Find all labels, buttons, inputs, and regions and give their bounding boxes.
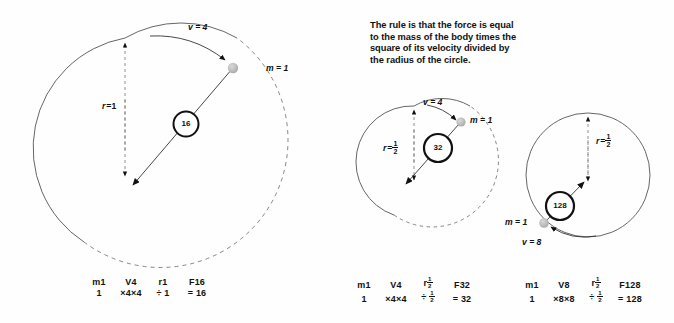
mass-dot-3: [539, 218, 549, 228]
rule-text-line-4: the radius of the circle.: [370, 55, 570, 67]
orbit-circle-solid-2: [356, 106, 414, 215]
mass-dot-2: [456, 117, 465, 126]
formula-1-calculation: 1 ×4×4 ÷ 1 = 16: [84, 288, 216, 298]
diagram-3-group: [526, 113, 650, 237]
mass-label-3: m = 1: [505, 217, 527, 227]
rule-text-line-3: square of its velocity divided by: [370, 43, 570, 55]
rule-text-line-2: to the mass of the body times the: [370, 32, 570, 44]
radius-value-1: 1: [111, 101, 116, 111]
formula-3-radius-header: r12: [581, 277, 611, 290]
formula-2: m1 V4 r12 F32 1 ×4×4 ÷ 12 = 32: [349, 277, 481, 304]
formula-2-result: = 32: [443, 294, 481, 304]
formula-3-velocity-header: V8: [547, 280, 581, 290]
formula-1: m1 V4 r1 F16 1 ×4×4 ÷ 1 = 16: [84, 277, 216, 298]
rule-text-block: The rule is that the force is equal to t…: [370, 20, 570, 66]
formula-3-force-header: F128: [611, 280, 649, 290]
mass-dot-1: [228, 63, 238, 73]
mass-label-2: m = 1: [470, 115, 492, 125]
velocity-label-1: v = 4: [188, 22, 207, 32]
formula-3-velocity-product: ×8×8: [547, 294, 581, 304]
force-value-3: 128: [548, 201, 572, 210]
formula-2-velocity-product: ×4×4: [379, 294, 413, 304]
formula-3-result: = 128: [611, 294, 649, 304]
velocity-arrow-2: [427, 105, 456, 120]
formula-1-mass-header: m1: [84, 277, 114, 287]
formula-1-velocity-header: V4: [114, 277, 148, 287]
mass-label-1: m = 1: [266, 63, 288, 73]
diagram-1-group: [33, 23, 288, 268]
formula-2-mass-value: 1: [349, 294, 379, 304]
radius-label-3: r = 1 2: [596, 133, 611, 148]
radius-symbol-1: r: [102, 101, 105, 111]
formula-1-result: = 16: [178, 288, 216, 298]
formula-2-radius-header: r12: [413, 277, 443, 290]
orbit-circle-solid-1b: [125, 23, 237, 38]
radius-symbol-2: r: [383, 143, 386, 153]
radius-denominator-3: 2: [605, 140, 611, 148]
formula-1-velocity-product: ×4×4: [114, 288, 148, 298]
formula-2-headers: m1 V4 r12 F32: [349, 277, 481, 290]
rule-text-line-1: The rule is that the force is equal: [370, 20, 570, 32]
velocity-label-2: v = 4: [423, 97, 442, 107]
formula-2-mass-header: m1: [349, 280, 379, 290]
formula-2-divide-radius: ÷ 12: [413, 291, 443, 304]
formula-1-headers: m1 V4 r1 F16: [84, 277, 216, 287]
force-value-2: 32: [428, 143, 448, 152]
formula-3-headers: m1 V8 r12 F128: [517, 277, 649, 290]
formula-1-mass-value: 1: [84, 288, 114, 298]
formula-3-mass-header: m1: [517, 280, 547, 290]
radius-numerator-2: 1: [392, 140, 398, 147]
formula-3-calculation: 1 ×8×8 ÷ 12 = 128: [517, 291, 649, 304]
radius-fraction-3: 1 2: [605, 133, 611, 148]
force-value-1: 16: [176, 119, 196, 128]
radius-numerator-3: 1: [605, 133, 611, 140]
radius-label-1: r = 1: [102, 101, 116, 111]
velocity-arrow-1: [150, 36, 225, 60]
radius-fraction-2: 1 2: [392, 140, 398, 155]
orbit-circle-solid-1: [33, 38, 125, 242]
formula-3-mass-value: 1: [517, 294, 547, 304]
radius-denominator-2: 2: [392, 147, 398, 155]
formula-3: m1 V8 r12 F128 1 ×8×8 ÷ 12 = 128: [517, 277, 649, 304]
formula-3-divide-radius: ÷ 12: [581, 291, 611, 304]
formula-1-divide-radius: ÷ 1: [148, 288, 178, 298]
formula-1-radius-header: r1: [148, 277, 178, 287]
formula-2-force-header: F32: [443, 280, 481, 290]
diagram-canvas: The rule is that the force is equal to t…: [0, 0, 674, 323]
velocity-label-3: v = 8: [522, 237, 541, 247]
vector-layer: [0, 0, 674, 323]
radius-symbol-3: r: [596, 136, 599, 146]
formula-2-velocity-header: V4: [379, 280, 413, 290]
orbit-circle-dashed-1: [84, 38, 288, 268]
formula-2-calculation: 1 ×4×4 ÷ 12 = 32: [349, 291, 481, 304]
formula-1-force-header: F16: [178, 277, 216, 287]
radius-label-2: r = 1 2: [383, 140, 398, 155]
